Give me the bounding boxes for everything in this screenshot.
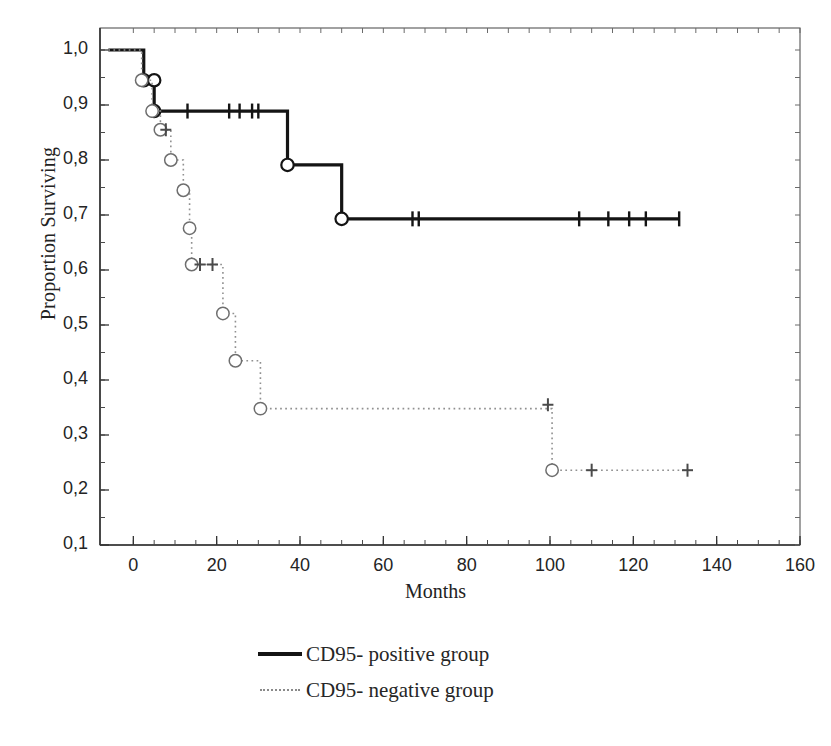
legend-label-negative: CD95- negative group (306, 678, 494, 703)
event-marker (335, 213, 347, 225)
event-marker (217, 307, 229, 319)
y-tick-label: 0,4 (42, 368, 88, 389)
series-positive (108, 50, 679, 226)
plot-canvas (0, 0, 831, 746)
series-layer (108, 50, 693, 477)
x-tick-label: 60 (353, 555, 413, 576)
x-tick-label: 100 (520, 555, 580, 576)
legend-line-solid-icon (258, 647, 302, 661)
axis-minor-ticks (100, 28, 800, 545)
y-tick-label: 0,8 (42, 148, 88, 169)
y-tick-label: 0,5 (42, 313, 88, 334)
x-tick-label: 120 (603, 555, 663, 576)
y-tick-label: 0,9 (42, 93, 88, 114)
x-tick-label: 160 (770, 555, 830, 576)
event-marker (254, 402, 266, 414)
event-marker (165, 154, 177, 166)
y-tick-label: 0,1 (42, 533, 88, 554)
axis-frame (100, 28, 800, 545)
event-marker (177, 184, 189, 196)
legend-line-dotted-icon (258, 683, 302, 697)
x-tick-label: 20 (187, 555, 247, 576)
series-negative (108, 50, 693, 477)
y-tick-label: 0,6 (42, 258, 88, 279)
x-tick-label: 140 (687, 555, 747, 576)
axis-major-ticks (100, 50, 800, 545)
y-tick-label: 0,7 (42, 203, 88, 224)
x-tick-label: 40 (270, 555, 330, 576)
y-tick-label: 0,2 (42, 478, 88, 499)
series-line (108, 50, 679, 219)
x-axis-title: Months (0, 580, 831, 603)
event-marker (135, 74, 147, 86)
x-tick-label: 80 (437, 555, 497, 576)
y-tick-label: 0,3 (42, 423, 88, 444)
event-marker (229, 355, 241, 367)
event-marker (546, 464, 558, 476)
event-marker (183, 222, 195, 234)
legend-label-positive: CD95- positive group (306, 642, 489, 667)
legend-item-negative: CD95- negative group (0, 672, 831, 708)
y-tick-label: 1,0 (42, 38, 88, 59)
event-marker (281, 159, 293, 171)
event-marker (146, 105, 158, 117)
x-tick-label: 0 (103, 555, 163, 576)
legend-item-positive: CD95- positive group (0, 636, 831, 672)
chart-legend: CD95- positive group CD95- negative grou… (0, 636, 831, 708)
plot-frame (100, 28, 800, 545)
survival-chart-figure: Proportion Surviving Months 0,10,20,30,4… (0, 0, 831, 746)
x-axis-title-text: Months (365, 580, 466, 602)
